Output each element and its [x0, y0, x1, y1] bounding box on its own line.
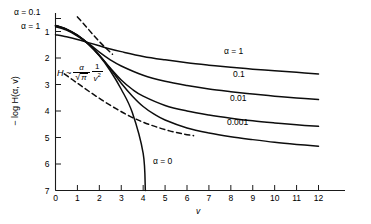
y-tick-label: 3 [34, 81, 50, 90]
formula-fraction-one-vsq: 1 v2 [92, 63, 103, 83]
y-tick-label: 6 [34, 160, 50, 169]
chart-figure: α = 0.1 α = 1 α = 1 0.1 0.01 0.001 α = 0… [0, 0, 371, 224]
plot-canvas [0, 0, 371, 224]
curve-label-alpha-0-001: 0.001 [227, 118, 248, 127]
formula-lead: H ~ [57, 68, 71, 78]
x-tick-marks [56, 185, 319, 191]
formula-v-squared: v2 [92, 71, 103, 83]
x-tick-label: 1 [67, 194, 87, 203]
x-tick-label: 8 [221, 194, 241, 203]
curve-label-alpha-0-1: 0.1 [233, 70, 245, 79]
x-tick-label: 4 [133, 194, 153, 203]
x-tick-label: 6 [177, 194, 197, 203]
corner-label-alpha-0-1: α = 0.1 [14, 8, 40, 17]
x-tick-label: 5 [155, 194, 175, 203]
y-tick-label: 7 [34, 187, 50, 196]
formula-pi: π [80, 73, 87, 82]
x-axis-title: v [196, 207, 200, 216]
y-tick-label: 2 [34, 54, 50, 63]
formula-one: 1 [93, 63, 101, 71]
formula-fraction-alpha-sqrtpi: α √π [73, 64, 89, 83]
y-tick-label: 4 [34, 107, 50, 116]
curve--0 [56, 25, 146, 190]
curve-label-alpha-0: α = 0 [153, 157, 172, 166]
formula-annotation: H ~ α √π 1 v2 [57, 63, 103, 83]
curve-label-alpha-1: α = 1 [224, 47, 243, 56]
x-tick-label: 3 [111, 194, 131, 203]
formula-sqrt-pi: √π [73, 72, 89, 82]
data-curves [56, 17, 319, 191]
x-tick-label: 12 [309, 194, 329, 203]
x-tick-label: 7 [199, 194, 219, 203]
formula-alpha: α [77, 64, 86, 72]
y-tick-marks [56, 19, 62, 191]
curve-label-alpha-0-01: 0.01 [230, 94, 247, 103]
x-tick-label: 2 [89, 194, 109, 203]
y-tick-label: 1 [34, 28, 50, 37]
y-tick-label: 5 [34, 134, 50, 143]
x-tick-label: 9 [243, 194, 263, 203]
x-tick-label: 10 [265, 194, 285, 203]
y-axis-title: − log H(α, v) [10, 53, 20, 149]
x-tick-label: 11 [287, 194, 307, 203]
